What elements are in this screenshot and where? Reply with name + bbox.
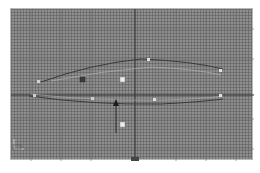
vertex-handle[interactable] [37, 80, 40, 83]
vertex-handle[interactable] [33, 94, 36, 97]
vertex-handle[interactable] [153, 98, 156, 101]
pivot-marker[interactable] [120, 77, 125, 82]
vertex-handle[interactable] [91, 97, 94, 100]
origin-marker [131, 157, 139, 161]
vertex-handle[interactable] [147, 58, 150, 61]
viewport[interactable] [10, 8, 253, 160]
selected-vertex[interactable] [80, 77, 85, 82]
transform-center-marker[interactable] [120, 122, 125, 127]
major-grid [11, 9, 254, 161]
viewport-canvas[interactable] [11, 9, 254, 161]
upper-spline-highlight [51, 67, 221, 81]
vertex-handle[interactable] [219, 69, 222, 72]
vertex-handle[interactable] [219, 94, 222, 97]
axis-tripod-icon [13, 139, 24, 149]
